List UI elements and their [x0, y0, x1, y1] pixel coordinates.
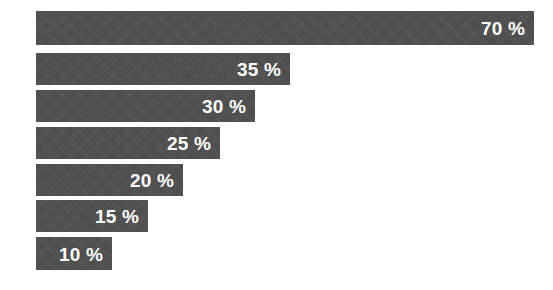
bar-row: 25 %: [0, 127, 553, 159]
bar-row: 35 %: [0, 53, 553, 85]
bar-segment: 35 %: [36, 53, 290, 85]
bar-value-label: 15 %: [95, 207, 139, 226]
bar-value-label: 70 %: [481, 19, 525, 38]
bar-value-label: 20 %: [130, 171, 174, 190]
bar-row: 30 %: [0, 90, 553, 122]
bar-row: 20 %: [0, 164, 553, 196]
bar-chart: 70 %35 %30 %25 %20 %15 %10 %: [0, 0, 553, 290]
bar-value-label: 35 %: [237, 60, 281, 79]
bar-row: 15 %: [0, 200, 553, 232]
bar-segment: 10 %: [36, 237, 112, 270]
bar-value-label: 25 %: [167, 134, 211, 153]
bar-segment: 15 %: [36, 200, 148, 232]
chart-plot-area: 70 %35 %30 %25 %20 %15 %10 %: [0, 0, 553, 290]
bar-value-label: 10 %: [59, 244, 103, 263]
bar-segment: 30 %: [36, 90, 255, 122]
bar-segment: 70 %: [36, 11, 534, 45]
bar-row: 10 %: [0, 237, 553, 270]
bar-row: 70 %: [0, 11, 553, 45]
bar-segment: 25 %: [36, 127, 220, 159]
bar-segment: 20 %: [36, 164, 183, 196]
bar-value-label: 30 %: [202, 97, 246, 116]
